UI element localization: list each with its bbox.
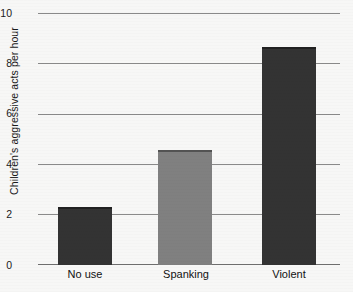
- gridline-10: [38, 13, 340, 14]
- y-tick-label-0: 0: [0, 259, 12, 271]
- y-tick-label-6: 6: [0, 107, 12, 119]
- bar-spanking: [158, 150, 212, 265]
- bar-top-edge: [262, 47, 316, 49]
- bar-no-use: [58, 207, 112, 265]
- y-tick-label-8: 8: [0, 57, 12, 69]
- bar-chart: Children's aggressive acts per hour 10 8…: [0, 0, 353, 292]
- bar-top-edge: [58, 207, 112, 209]
- x-category-label-violent: Violent: [250, 268, 328, 280]
- y-tick-label-4: 4: [0, 158, 12, 170]
- plot-area: [38, 13, 340, 265]
- bar-violent: [262, 47, 316, 265]
- x-category-label-no-use: No use: [47, 268, 123, 280]
- y-tick-label-10: 10: [0, 7, 12, 19]
- x-category-label-spanking: Spanking: [147, 268, 225, 280]
- y-tick-label-2: 2: [0, 208, 12, 220]
- bar-top-edge: [158, 150, 212, 152]
